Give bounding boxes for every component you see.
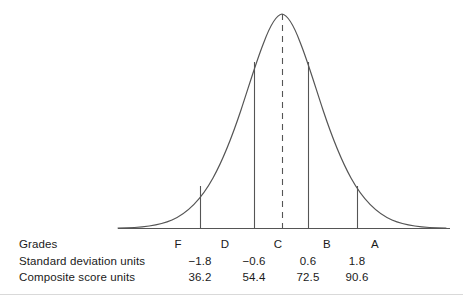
bell-curve-svg [0, 0, 463, 236]
composite-value-1: 36.2 [189, 269, 212, 285]
row-label-standard-deviation-units: Standard deviation units [19, 253, 145, 269]
sd-value-2: −0.6 [242, 253, 265, 269]
grade-d: D [221, 236, 229, 252]
grade-b: B [323, 236, 331, 252]
composite-value-3: 72.5 [297, 269, 320, 285]
sd-value-1: −1.8 [188, 253, 211, 269]
grade-scale-table: Grades F D C B A Standard deviation unit… [0, 234, 463, 290]
normal-curve-figure: Grades F D C B A Standard deviation unit… [0, 0, 463, 307]
bottom-divider [0, 294, 463, 295]
sd-value-4: 1.8 [349, 253, 365, 269]
sd-value-3: 0.6 [300, 253, 316, 269]
bell-curve-chart [0, 0, 463, 236]
row-label-composite-score-units: Composite score units [19, 269, 135, 285]
table-row-grades: Grades F D C B A [0, 236, 463, 252]
row-label-grades: Grades [19, 236, 57, 252]
composite-value-2: 54.4 [243, 269, 266, 285]
grade-c: C [274, 236, 282, 252]
table-row-standard-deviation-units: Standard deviation units −1.8 −0.6 0.6 1… [0, 253, 463, 269]
composite-value-4: 90.6 [346, 269, 369, 285]
grade-a: A [371, 236, 379, 252]
grade-f: F [174, 236, 181, 252]
table-row-composite-score-units: Composite score units 36.2 54.4 72.5 90.… [0, 269, 463, 285]
